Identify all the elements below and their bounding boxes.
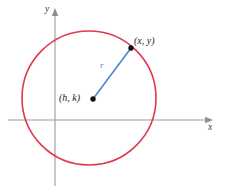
center-point-label: (h, k)	[59, 93, 80, 103]
y-axis-arrowhead	[52, 8, 58, 16]
x-axis-label: x	[208, 123, 212, 133]
circle-diagram-figure: y x (h, k) (x, y) r	[0, 0, 227, 192]
radius-segment-line	[93, 48, 131, 99]
circle-point-label: (x, y)	[134, 36, 155, 46]
radius-label: r	[100, 61, 104, 70]
y-axis-label: y	[45, 5, 49, 15]
center-point-dot	[90, 96, 95, 101]
circle-shape	[22, 31, 156, 165]
diagram-canvas	[0, 0, 227, 192]
circle-point-dot	[128, 45, 133, 50]
